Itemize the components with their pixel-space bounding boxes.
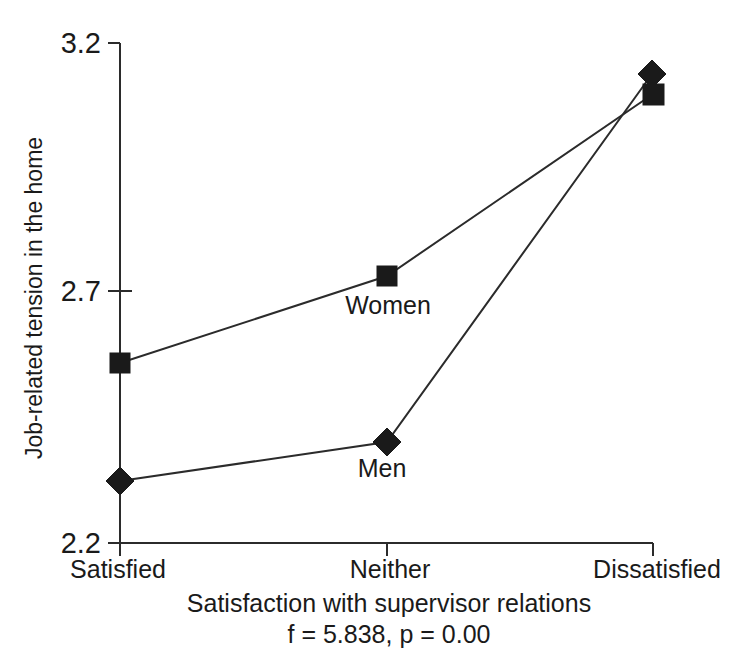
series-line-women	[120, 94, 653, 363]
series-label-women: Women	[345, 291, 431, 319]
y-tick-label-top: 3.2	[61, 27, 101, 59]
x-tick-label-neither: Neither	[350, 555, 431, 583]
line-chart-canvas: 3.2 2.7 2.2 Satisfied Neither Dissatisfi…	[0, 0, 741, 666]
series-label-men: Men	[358, 454, 407, 482]
y-tick-label-mid: 2.7	[61, 275, 101, 307]
data-point-women-neither	[377, 266, 397, 286]
chart-figure: 3.2 2.7 2.2 Satisfied Neither Dissatisfi…	[0, 0, 741, 666]
data-point-men-neither	[373, 428, 401, 456]
data-point-women-satisfied	[110, 353, 130, 373]
x-tick-label-dissatisfied: Dissatisfied	[593, 555, 721, 583]
chart-stat-annotation: f = 5.838, p = 0.00	[288, 620, 491, 648]
x-axis-title: Satisfaction with supervisor relations	[187, 589, 591, 617]
x-tick-label-satisfied: Satisfied	[70, 555, 166, 583]
y-axis-title: Job-related tension in the home	[21, 137, 47, 459]
data-point-men-satisfied	[106, 467, 134, 495]
